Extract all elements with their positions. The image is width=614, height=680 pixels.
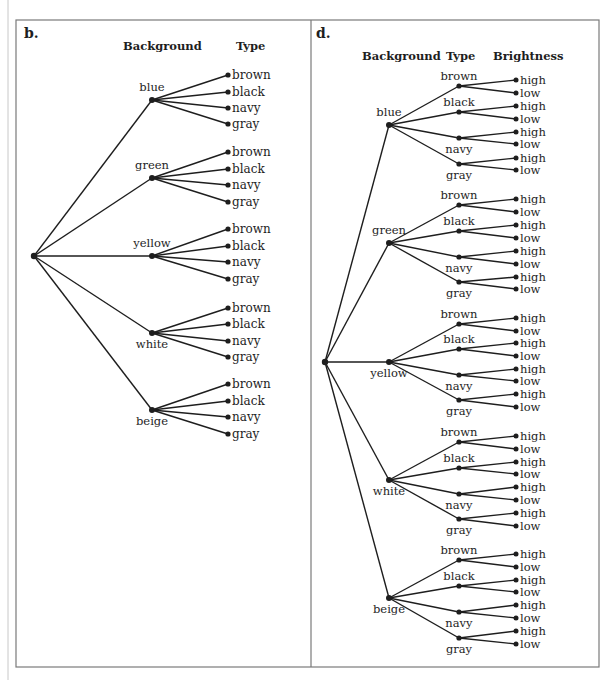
type-label-black: black (443, 214, 475, 228)
panel-b-edges (34, 75, 228, 434)
background-label-white: white (136, 337, 169, 351)
edge-black-to-low (459, 231, 516, 238)
brightness-label-low: low (520, 86, 541, 100)
edge-brown-to-low (459, 560, 516, 567)
type-node-dot (456, 516, 461, 521)
root-node-dot (31, 253, 37, 259)
leaf-node-dot (225, 354, 230, 359)
type-label-gray: gray (446, 168, 473, 182)
edge-yellow-to-black (389, 349, 459, 362)
background-node-dot (149, 407, 155, 413)
type-label-gray: gray (232, 350, 260, 364)
leaf-node-dot (225, 89, 230, 94)
brightness-label-high: high (520, 218, 546, 232)
type-node-dot (456, 321, 461, 326)
background-node-dot (386, 122, 392, 128)
leaf-node-dot (225, 149, 230, 154)
type-label-navy: navy (445, 379, 473, 393)
brightness-label-low: low (520, 374, 541, 388)
edge-black-to-low (459, 112, 516, 119)
leaf-node-dot (514, 142, 519, 147)
type-label-gray: gray (446, 523, 473, 537)
background-label-white: white (373, 484, 406, 498)
edge-brown-to-low (459, 324, 516, 331)
type-label-gray: gray (446, 286, 473, 300)
leaf-node-dot (514, 642, 519, 647)
type-label-black: black (443, 451, 475, 465)
leaf-node-dot (514, 341, 519, 346)
type-node-dot (456, 135, 461, 140)
panel-b-header-type: Type (236, 39, 265, 53)
edge-white-to-brown (152, 308, 228, 333)
edge-gray-to-high (459, 277, 516, 282)
type-label-gray: gray (232, 427, 260, 441)
panel-d-header-background: Background (362, 49, 441, 63)
leaf-node-dot (225, 105, 230, 110)
leaf-node-dot (514, 472, 519, 477)
type-node-dot (456, 161, 461, 166)
leaf-node-dot (225, 259, 230, 264)
brightness-label-low: low (520, 282, 541, 296)
brightness-label-low: low (520, 560, 541, 574)
type-label-navy: navy (232, 334, 261, 348)
type-label-brown: brown (440, 69, 478, 83)
type-label-gray: gray (232, 195, 260, 209)
background-node-dot (149, 253, 155, 259)
leaf-node-dot (514, 223, 519, 228)
leaf-node-dot (514, 168, 519, 173)
leaf-node-dot (514, 210, 519, 215)
edge-root-to-blue (34, 100, 152, 256)
leaf-node-dot (514, 249, 519, 254)
brightness-label-low: low (520, 637, 541, 651)
type-node-dot (456, 202, 461, 207)
panel-d: d. Background Type Brightness highlowbro… (316, 25, 564, 656)
panel-b: b. Background Type brownblacknavygrayblu… (24, 25, 271, 441)
leaf-node-dot (514, 629, 519, 634)
edge-root-to-white (34, 256, 152, 333)
type-label-black: black (232, 85, 265, 99)
type-node-dot (456, 372, 461, 377)
leaf-node-dot (514, 156, 519, 161)
leaf-node-dot (225, 243, 230, 248)
type-label-black: black (232, 317, 265, 331)
root-node-dot (322, 359, 328, 365)
leaf-node-dot (225, 199, 230, 204)
background-node-dot (149, 175, 155, 181)
brightness-label-high: high (520, 429, 546, 443)
edge-root-to-blue (325, 125, 389, 362)
background-node-dot (386, 240, 392, 246)
leaf-node-dot (514, 236, 519, 241)
leaf-node-dot (514, 434, 519, 439)
edge-black-to-low (459, 468, 516, 474)
type-label-navy: navy (232, 410, 261, 424)
brightness-label-low: low (520, 442, 541, 456)
type-label-black: black (443, 95, 475, 109)
edge-green-to-navy (389, 243, 459, 257)
type-node-dot (456, 557, 461, 562)
type-label-black: black (232, 162, 265, 176)
edge-brown-to-low (459, 86, 516, 93)
panel-b-label: b. (24, 25, 39, 41)
type-node-dot (456, 83, 461, 88)
leaf-node-dot (514, 460, 519, 465)
type-node-dot (456, 465, 461, 470)
brightness-label-high: high (520, 547, 546, 561)
brightness-label-low: low (520, 611, 541, 625)
brightness-label-high: high (520, 387, 546, 401)
leaf-node-dot (225, 338, 230, 343)
leaf-node-dot (514, 578, 519, 583)
leaf-node-dot (514, 367, 519, 372)
leaf-node-dot (514, 616, 519, 621)
leaf-node-dot (514, 262, 519, 267)
edge-white-to-black (152, 324, 228, 333)
panel-b-header-background: Background (123, 39, 202, 53)
edge-brown-to-low (459, 442, 516, 449)
brightness-label-low: low (520, 519, 541, 533)
edge-root-to-beige (34, 256, 152, 410)
type-node-dot (456, 279, 461, 284)
type-label-gray: gray (232, 272, 260, 286)
type-label-brown: brown (440, 425, 478, 439)
panel-d-header-brightness: Brightness (493, 49, 564, 63)
brightness-label-high: high (520, 99, 546, 113)
brightness-label-low: low (520, 467, 541, 481)
